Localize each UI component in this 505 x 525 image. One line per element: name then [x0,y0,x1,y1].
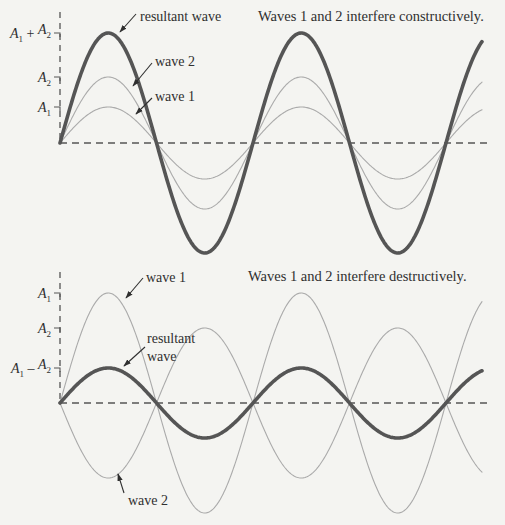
y-tick-mark [54,368,60,372]
y-tick-mark [54,77,60,81]
wave-labels: resultant wavewave 2wave 1 [120,9,221,114]
resultant-label: resultant [147,331,195,346]
wave-interference-diagram: Waves 1 and 2 interfere constructively. … [0,0,505,525]
y-tick-label: A1 + A2 [9,22,51,44]
y-tick-mark [54,33,60,37]
arrow-icon [124,347,145,366]
wave-label: wave [147,349,177,364]
arrow-icon [126,278,143,298]
wave-1-label: wave 1 [155,89,195,104]
wave-1-label: wave 1 [146,270,186,285]
y-tick-label: A1 [37,100,51,118]
y-tick-mark [54,293,60,297]
y-tick-label: A1 – A2 [10,357,51,379]
y-tick-label: A2 [37,321,51,339]
y-axis-ticks: A1A2A1 – A2 [10,286,60,379]
constructive-interference-panel: Waves 1 and 2 interfere constructively. … [9,8,487,253]
resultant-wave-label: resultant wave [140,9,221,24]
y-tick-mark [54,107,60,111]
y-tick-mark [54,328,60,332]
wave-2-label: wave 2 [155,54,195,69]
arrow-icon [120,14,136,32]
y-axis-ticks: A1A2A1 + A2 [9,22,60,118]
y-tick-label: A1 [37,286,51,304]
wave-labels: wave 1resultantwavewave 2 [118,270,195,508]
arrow-icon [118,474,124,493]
destructive-interference-panel: Waves 1 and 2 interfere destructively. A… [10,268,487,513]
wave-2-label: wave 2 [128,493,168,508]
y-tick-label: A2 [37,70,51,88]
panel-title: Waves 1 and 2 interfere destructively. [248,268,467,284]
panel-title: Waves 1 and 2 interfere constructively. [258,8,484,24]
